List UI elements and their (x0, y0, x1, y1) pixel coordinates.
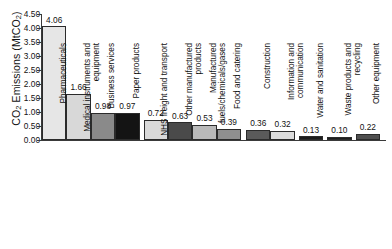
bar-chart: CO2 Emissions (MtCO2) 0.000.501.001.502.… (0, 0, 392, 249)
y-tick-mark (37, 56, 41, 57)
y-tick-mark (37, 126, 41, 127)
x-axis-category-labels: PharmaceuticalsMedical instruments and e… (42, 143, 386, 249)
y-tick-mark (37, 98, 41, 99)
x-axis-label: Other manufactured products (185, 43, 203, 143)
x-axis-label: Medical instruments and equipment (83, 43, 101, 143)
x-axis-label: Other equipment (372, 43, 381, 143)
x-axis-label: Construction (263, 43, 272, 143)
x-axis-label: Waste products and recycling (344, 43, 362, 143)
y-tick-mark (37, 42, 41, 43)
x-axis-label: Pharmaceuticals (59, 43, 68, 143)
x-axis-label: Manufactured fuels/chemicals/gases (209, 43, 227, 143)
y-tick-mark (37, 84, 41, 85)
x-axis-label: NHS freight and transport (160, 43, 169, 143)
y-tick-mark (37, 14, 41, 15)
y-tick-mark (37, 112, 41, 113)
x-axis-label: Paper products (132, 43, 141, 143)
x-axis-label: Water and sanitation (316, 43, 325, 143)
x-axis-label: Information and communication (287, 43, 305, 143)
x-axis-label: Food and catering (233, 43, 242, 143)
y-axis-tick-labels: 0.000.501.001.502.002.503.003.504.004.50 (14, 14, 40, 140)
y-tick-mark (37, 70, 41, 71)
y-tick-mark (37, 28, 41, 29)
x-axis-label: Business services (107, 43, 116, 143)
y-tick-mark (37, 140, 41, 141)
